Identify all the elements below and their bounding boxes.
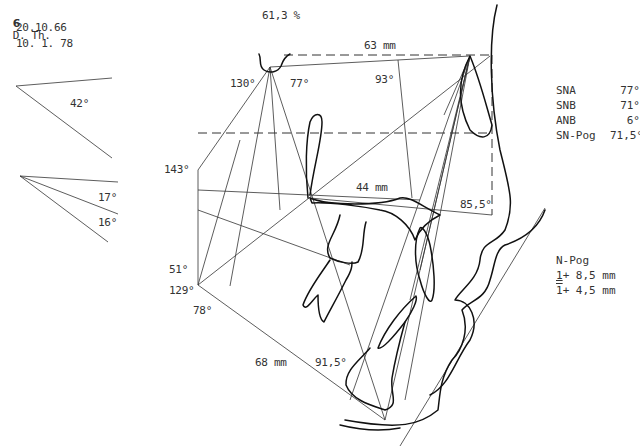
angle-label-77: 77° xyxy=(290,78,309,90)
angle-label-42: 42° xyxy=(70,98,89,110)
angle-label-51: 51° xyxy=(169,264,188,276)
mandible-length-label: 68 mm xyxy=(255,357,287,369)
angle-label-93: 93° xyxy=(375,74,394,86)
angle-label-91-5: 91,5° xyxy=(315,357,347,369)
incisor-notes-title: N-Pog xyxy=(556,253,616,268)
angle-label-17: 17° xyxy=(98,192,117,204)
measurement-row-sna: SNA 77° xyxy=(556,83,640,98)
incisor-notes: N-Pog 1 + 8,5 mm 1 + 4,5 mm xyxy=(556,253,616,298)
angle-label-130: 130° xyxy=(230,78,255,90)
measurement-row-anb: ANB 6° xyxy=(556,113,640,128)
palatal-length-label: 44 mm xyxy=(356,182,388,194)
cephalometric-tracing xyxy=(0,0,640,446)
measurement-row-sn-pog: SN-Pog 71,5° xyxy=(556,128,640,143)
angle-diagram-17-16 xyxy=(20,176,118,242)
construction-lines xyxy=(198,56,545,446)
anatomical-contours xyxy=(259,5,545,430)
sn-length-label: 63 mm xyxy=(364,40,396,52)
angle-label-78: 78° xyxy=(193,305,212,317)
angle-diagram-42 xyxy=(16,78,112,158)
angle-label-16: 16° xyxy=(98,217,117,229)
measurements-table: SNA 77° SNB 71° ANB 6° SN-Pog 71,5° xyxy=(556,83,640,143)
angle-label-143: 143° xyxy=(164,164,189,176)
angle-label-129: 129° xyxy=(169,285,194,297)
angle-label-85-5: 85,5° xyxy=(460,199,492,211)
upper-incisor-row: 1 + 8,5 mm xyxy=(556,268,616,283)
lower-incisor-row: 1 + 4,5 mm xyxy=(556,283,616,298)
measurement-row-snb: SNB 71° xyxy=(556,98,640,113)
